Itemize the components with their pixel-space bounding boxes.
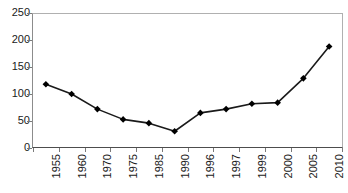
x-axis-tick-label: 1955 — [51, 154, 62, 178]
x-axis-tick-label: 2010 — [334, 154, 345, 178]
x-axis-tick-labels: 1955196019701975198519901996199719992000… — [0, 148, 348, 193]
x-axis-tick-label: 1960 — [77, 154, 88, 178]
series-markers — [43, 43, 333, 134]
data-point-marker — [249, 100, 256, 107]
data-point-marker — [223, 106, 230, 113]
data-point-marker — [43, 81, 50, 88]
x-axis-tick-label: 1999 — [257, 154, 268, 178]
data-point-marker — [120, 116, 127, 123]
x-axis-tick-label: 1970 — [102, 154, 113, 178]
x-axis-tick-label: 1990 — [180, 154, 191, 178]
x-axis-tick-label: 2000 — [283, 154, 294, 178]
x-axis-tick-label: 1985 — [154, 154, 165, 178]
data-point-marker — [68, 91, 75, 98]
data-point-marker — [146, 120, 153, 127]
data-point-marker — [94, 106, 101, 113]
line-chart: 050100150200250 195519601970197519851990… — [0, 0, 348, 193]
x-axis-tick-label: 1997 — [231, 154, 242, 178]
x-axis-tick-label: 1975 — [128, 154, 139, 178]
series-line — [46, 46, 329, 131]
x-axis-tick-label: 1996 — [205, 154, 216, 178]
x-axis-tick-label: 2005 — [308, 154, 319, 178]
